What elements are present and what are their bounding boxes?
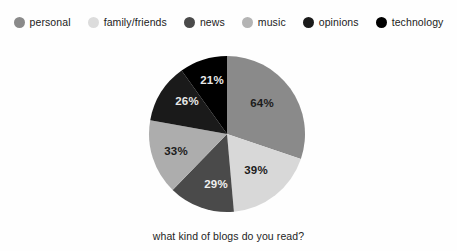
legend-item-opinions[interactable]: opinions (303, 17, 359, 28)
legend-item-label: opinions (319, 17, 359, 28)
legend-swatch-icon (376, 17, 387, 28)
legend-item-music[interactable]: music (242, 17, 286, 28)
legend-item-news[interactable]: news (184, 17, 225, 28)
legend-swatch-icon (88, 17, 99, 28)
legend-swatch-icon (14, 17, 25, 28)
legend-item-personal[interactable]: personal (14, 17, 71, 28)
chart-legend: personalfamily/friendsnewsmusicopinionst… (0, 17, 457, 28)
legend-swatch-icon (242, 17, 253, 28)
legend-swatch-icon (303, 17, 314, 28)
legend-item-technology[interactable]: technology (376, 17, 444, 28)
legend-item-family-friends[interactable]: family/friends (88, 17, 167, 28)
pie-chart: 64%39%29%33%26%21% (148, 55, 318, 225)
pie-slice-value-label: 64% (250, 97, 274, 109)
pie-slice-value-label: 21% (200, 74, 224, 86)
chart-figure: personalfamily/friendsnewsmusicopinionst… (0, 0, 457, 251)
pie-chart-area: 64%39%29%33%26%21% (0, 40, 457, 225)
pie-slice-value-label: 29% (204, 178, 228, 190)
legend-swatch-icon (184, 17, 195, 28)
legend-item-label: technology (392, 17, 444, 28)
pie-slice-value-label: 33% (164, 145, 188, 157)
legend-item-label: family/friends (104, 17, 167, 28)
legend-item-label: news (200, 17, 225, 28)
pie-slice-value-label: 26% (175, 95, 199, 107)
legend-item-label: music (258, 17, 286, 28)
chart-caption: what kind of blogs do you read? (0, 230, 457, 242)
pie-slice-value-label: 39% (244, 164, 268, 176)
legend-item-label: personal (30, 17, 71, 28)
